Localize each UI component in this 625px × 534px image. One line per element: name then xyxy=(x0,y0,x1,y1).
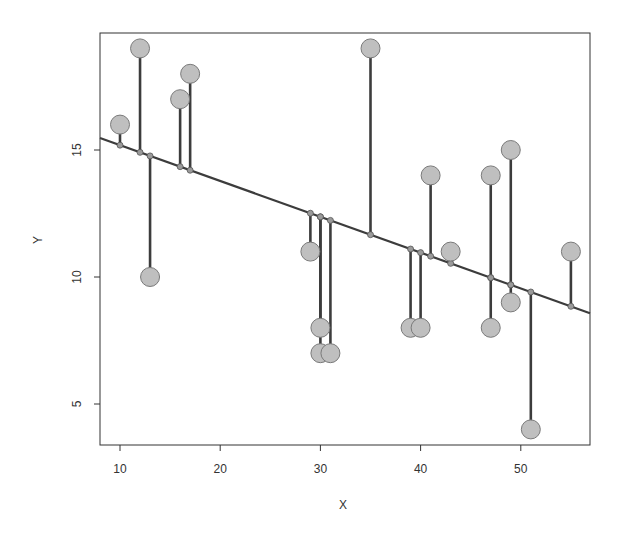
x-tick-label: 30 xyxy=(314,462,328,476)
data-point xyxy=(411,318,430,337)
data-point xyxy=(311,318,330,337)
x-tick-label: 50 xyxy=(514,462,528,476)
data-point xyxy=(321,344,340,363)
regression-line xyxy=(100,138,590,313)
x-tick-label: 20 xyxy=(214,462,228,476)
fitted-point xyxy=(408,246,414,252)
fitted-point xyxy=(147,153,153,159)
data-point xyxy=(131,39,150,58)
fitted-point xyxy=(187,167,193,173)
data-point xyxy=(361,39,380,58)
data-point xyxy=(501,293,520,312)
fitted-point xyxy=(508,282,514,288)
y-tick-label: 10 xyxy=(70,270,84,284)
fitted-point xyxy=(568,303,574,309)
x-tick-label: 40 xyxy=(414,462,428,476)
data-point xyxy=(421,166,440,185)
fitted-point xyxy=(488,275,494,281)
x-axis-label: X xyxy=(339,498,347,512)
data-point xyxy=(181,64,200,83)
data-point xyxy=(481,166,500,185)
fitted-point xyxy=(177,164,183,170)
residual-scatter-plot: 1020304050 51015 X Y xyxy=(0,0,625,534)
data-point xyxy=(561,242,580,261)
data-point xyxy=(111,115,130,134)
y-axis: 51015 xyxy=(70,143,100,407)
y-axis-label: Y xyxy=(31,236,45,244)
fitted-point xyxy=(137,149,143,155)
x-axis: 1020304050 xyxy=(113,445,527,476)
data-point xyxy=(501,141,520,160)
fitted-point xyxy=(528,289,534,295)
data-point xyxy=(171,90,190,109)
y-tick-label: 5 xyxy=(70,400,84,407)
fitted-point xyxy=(368,232,374,238)
fitted-point xyxy=(307,210,313,216)
data-point xyxy=(521,420,540,439)
fitted-point xyxy=(428,253,434,259)
data-point xyxy=(141,268,160,287)
data-point xyxy=(301,242,320,261)
fitted-point xyxy=(327,217,333,223)
data-point xyxy=(441,242,460,261)
fitted-point xyxy=(418,250,424,256)
x-tick-label: 10 xyxy=(113,462,127,476)
fitted-point xyxy=(317,214,323,220)
regression-line-path xyxy=(100,138,590,313)
fitted-point xyxy=(117,142,123,148)
data-point xyxy=(481,318,500,337)
y-tick-label: 15 xyxy=(70,143,84,157)
